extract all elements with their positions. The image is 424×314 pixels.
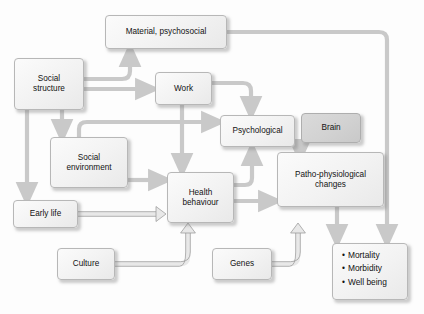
- node-culture[interactable]: Culture: [57, 248, 115, 280]
- node-brain[interactable]: Brain: [301, 113, 361, 143]
- node-early-life[interactable]: Early life: [13, 200, 78, 228]
- node-genes[interactable]: Genes: [212, 248, 272, 280]
- bullet-icon: •: [342, 251, 345, 261]
- node-health-behaviour[interactable]: Health behaviour: [167, 172, 234, 223]
- node-psychological-label: Psychological: [232, 126, 282, 136]
- node-work-label: Work: [174, 84, 193, 94]
- diagram-canvas: Material, psychosocial Social structure …: [0, 0, 424, 314]
- node-patho-physiological-changes-label: Patho-physiological changes: [295, 170, 366, 189]
- node-social-structure[interactable]: Social structure: [14, 58, 84, 110]
- node-work[interactable]: Work: [155, 72, 212, 105]
- edge-culture-to-health-behaviour-head: [181, 223, 196, 233]
- edge-genes-to-patho-head: [291, 223, 306, 233]
- edge-health-behaviour-to-psychological: [234, 155, 252, 185]
- node-early-life-label: Early life: [30, 209, 61, 219]
- outcome-item-morbidity: •Morbidity: [342, 264, 407, 274]
- edge-early-life-to-health-behaviour-head: [156, 207, 166, 222]
- node-social-structure-label: Social structure: [33, 74, 65, 93]
- node-material-psychosocial-label: Material, psychosocial: [126, 27, 207, 37]
- edge-social-structure-to-material: [84, 56, 130, 79]
- outcome-item-well-being: •Well being: [342, 278, 407, 288]
- node-social-environment[interactable]: Social environment: [50, 137, 128, 188]
- node-social-environment-label: Social environment: [66, 153, 111, 172]
- node-outcomes[interactable]: •Mortality •Morbidity •Well being: [332, 243, 408, 300]
- outcome-item-mortality: •Mortality: [342, 251, 407, 261]
- node-material-psychosocial[interactable]: Material, psychosocial: [105, 15, 227, 49]
- node-culture-label: Culture: [73, 259, 99, 269]
- node-patho-physiological-changes[interactable]: Patho-physiological changes: [277, 152, 384, 207]
- edge-social-environment-to-psychological: [79, 122, 212, 137]
- bullet-icon: •: [342, 278, 345, 288]
- edge-work-to-psychological: [212, 83, 251, 107]
- node-brain-label: Brain: [321, 123, 340, 133]
- node-genes-label: Genes: [230, 259, 254, 269]
- bullet-icon: •: [342, 264, 345, 274]
- node-health-behaviour-label: Health behaviour: [183, 188, 219, 207]
- node-psychological[interactable]: Psychological: [220, 115, 295, 147]
